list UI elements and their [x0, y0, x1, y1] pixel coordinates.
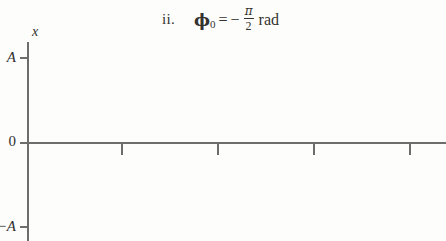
phi-symbol: ϕ [194, 10, 210, 30]
horizontal-axis-line [27, 142, 446, 144]
figure-title: ii. ϕ0 = − π 2 rad [162, 6, 279, 33]
y-tick-label-neg-amplitude: −A [0, 218, 16, 235]
fraction-denominator: 2 [245, 19, 253, 32]
y-tick-mark-zero [20, 142, 29, 144]
oscillation-phase-figure: ii. ϕ0 = − π 2 rad x A 0 −A [0, 0, 446, 241]
equals-sign: = [219, 11, 228, 29]
y-axis-variable-label: x [32, 24, 38, 40]
fraction-numerator: π [244, 5, 254, 18]
figure-enumeration-label: ii. [162, 11, 175, 28]
y-tick-label-amplitude: A [0, 49, 16, 66]
phase-equation: ϕ0 = − π 2 rad [194, 6, 279, 33]
radian-unit-label: rad [259, 11, 279, 29]
x-tick-mark-3 [313, 144, 315, 155]
x-tick-mark-1 [121, 144, 123, 155]
y-tick-mark-neg-amplitude [20, 226, 29, 228]
x-tick-mark-4 [409, 144, 411, 155]
y-tick-label-zero: 0 [0, 133, 16, 150]
phi-subscript: 0 [210, 18, 216, 30]
y-tick-mark-amplitude [20, 57, 29, 59]
x-tick-mark-2 [217, 144, 219, 155]
minus-sign: − [231, 11, 240, 29]
pi-over-two-fraction: π 2 [244, 5, 254, 32]
